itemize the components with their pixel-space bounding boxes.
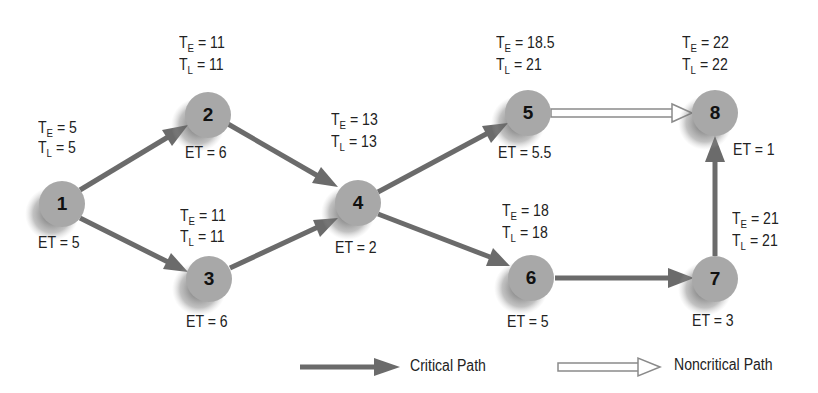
node-7-tl: TL = 21 (732, 231, 778, 256)
node-8-et: ET = 1 (733, 140, 775, 159)
legend-critical-arrow (300, 358, 400, 376)
edge-4-6 (378, 214, 510, 266)
node-6-et: ET = 5 (507, 312, 549, 331)
legend-noncritical-label: Noncritical Path (674, 356, 773, 374)
node-5-label: 5 (505, 90, 551, 136)
node-3-tl: TL = 11 (180, 227, 225, 252)
node-6-tl: TL = 18 (502, 223, 548, 248)
node-7-et: ET = 3 (692, 311, 734, 330)
node-8-label: 8 (692, 90, 738, 136)
node-4-tl: TL = 13 (331, 132, 377, 157)
node-1-et: ET = 5 (38, 233, 80, 252)
edge-4-5 (378, 123, 508, 192)
edge-2-4 (228, 124, 338, 187)
node-4-label: 4 (335, 180, 381, 226)
node-1-label: 1 (39, 181, 85, 227)
legend-noncritical-arrow (558, 358, 660, 376)
node-4-et: ET = 2 (335, 238, 377, 257)
node-8-tl: TL = 22 (682, 55, 728, 80)
edge-7-8 (705, 136, 725, 256)
node-5-et: ET = 5.5 (498, 143, 551, 162)
edge-5-8 (551, 104, 692, 122)
edge-1-3 (80, 218, 188, 272)
edge-6-7 (555, 268, 694, 288)
node-3-et: ET = 6 (186, 312, 228, 331)
node-2-label: 2 (185, 92, 231, 138)
node-7-label: 7 (692, 256, 738, 302)
node-3-label: 3 (186, 256, 232, 302)
node-6-label: 6 (508, 255, 554, 301)
pert-diagram: 1 2 3 4 5 6 7 8 TE = 5 TL = 5 ET = 5 TE … (0, 0, 818, 393)
node-5-tl: TL = 21 (496, 55, 542, 80)
node-2-et: ET = 6 (185, 143, 227, 162)
legend-critical-label: Critical Path (410, 357, 486, 375)
node-1-tl: TL = 5 (38, 138, 76, 163)
edge-3-4 (230, 218, 338, 268)
node-2-tl: TL = 11 (179, 55, 224, 80)
edge-1-2 (80, 125, 188, 190)
